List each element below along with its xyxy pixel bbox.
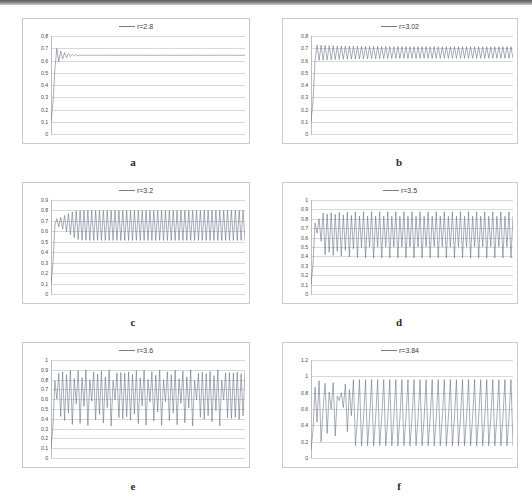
series-line	[311, 36, 513, 134]
y-axis-labels-e: 00.10.20.30.40.50.60.70.80.91	[25, 360, 50, 458]
y-tick-label: 0.3	[41, 94, 48, 100]
y-tick-label: 0.8	[301, 216, 308, 222]
figure-cell-c: r=3.2 00.10.20.30.40.50.60.70.80.9 c	[0, 170, 266, 330]
y-tick-label: 0.5	[41, 239, 48, 245]
y-tick-label: 0.2	[41, 270, 48, 276]
y-tick-label: 1	[305, 373, 308, 379]
y-tick-label: 0.7	[41, 386, 48, 392]
legend-line-marker-icon	[381, 26, 397, 27]
y-tick-label: 0.7	[41, 45, 48, 51]
y-tick-label: 0.5	[301, 244, 308, 250]
y-tick-label: 0.1	[41, 281, 48, 287]
legend-c: r=3.2	[23, 187, 249, 194]
y-tick-label: 0.2	[41, 107, 48, 113]
y-tick-label: 0.8	[41, 33, 48, 39]
figure-cell-a: r=2.8 00.10.20.30.40.50.60.70.8 a	[0, 6, 266, 170]
y-axis-labels-d: 00.10.20.30.40.50.60.70.80.91	[285, 200, 310, 294]
y-tick-label: 0.9	[301, 206, 308, 212]
gridline	[51, 294, 245, 295]
y-tick-label: 0.8	[301, 390, 308, 396]
legend-label-c: r=3.2	[137, 187, 153, 194]
y-tick-label: 0.5	[41, 70, 48, 76]
figure-cell-e: r=3.6 00.10.20.30.40.50.60.70.80.91 e	[0, 330, 266, 494]
y-tick-label: 0	[305, 291, 308, 297]
y-tick-label: 0.3	[301, 263, 308, 269]
y-tick-label: 0.6	[41, 58, 48, 64]
chart-panel-c: r=3.2 00.10.20.30.40.50.60.70.80.9	[22, 182, 250, 304]
series-line	[51, 200, 245, 294]
top-border-band	[0, 0, 532, 5]
y-tick-label: 0.2	[301, 107, 308, 113]
chart-panel-a: r=2.8 00.10.20.30.40.50.60.70.8	[22, 18, 250, 144]
y-tick-label: 0.7	[41, 218, 48, 224]
gridline	[311, 458, 513, 459]
y-axis-labels-b: 00.10.20.30.40.50.60.70.8	[285, 36, 310, 134]
plot-area-a	[51, 36, 245, 134]
chart-panel-d: r=3.5 00.10.20.30.40.50.60.70.80.91	[282, 182, 518, 304]
y-tick-label: 0.4	[41, 82, 48, 88]
plot-area-c	[51, 200, 245, 294]
y-tick-label: 0.7	[301, 225, 308, 231]
legend-e: r=3.6	[23, 347, 249, 354]
legend-label-f: r=3.84	[399, 347, 419, 354]
y-tick-label: 0.7	[301, 45, 308, 51]
panel-caption-a: a	[0, 156, 266, 168]
y-tick-label: 0	[45, 455, 48, 461]
panel-caption-b: b	[266, 156, 532, 168]
y-tick-label: 0.1	[41, 119, 48, 125]
gridline	[311, 134, 513, 135]
legend-a: r=2.8	[23, 23, 249, 30]
legend-d: r=3.5	[283, 187, 517, 194]
plot-area-f	[311, 360, 513, 458]
legend-line-marker-icon	[119, 190, 135, 191]
y-tick-label: 1.2	[301, 357, 308, 363]
series-line	[51, 360, 245, 458]
y-tick-label: 0	[45, 131, 48, 137]
y-tick-label: 0	[45, 291, 48, 297]
y-tick-label: 1	[45, 357, 48, 363]
y-tick-label: 0.4	[301, 253, 308, 259]
panel-caption-e: e	[0, 480, 266, 492]
gridline	[311, 294, 513, 295]
figure-cell-f: r=3.84 00.20.40.60.811.2 f	[266, 330, 532, 494]
legend-b: r=3.02	[283, 23, 517, 30]
series-line	[311, 200, 513, 294]
plot-area-b	[311, 36, 513, 134]
y-tick-label: 0.8	[301, 33, 308, 39]
panel-caption-d: d	[266, 316, 532, 328]
legend-label-e: r=3.6	[137, 347, 153, 354]
y-tick-label: 0.4	[41, 416, 48, 422]
y-tick-label: 0.3	[301, 94, 308, 100]
y-tick-label: 0.4	[41, 249, 48, 255]
y-tick-label: 0.8	[41, 377, 48, 383]
y-tick-label: 0.4	[301, 82, 308, 88]
y-tick-label: 0.6	[41, 396, 48, 402]
y-tick-label: 0.6	[301, 58, 308, 64]
y-tick-label: 0.3	[41, 260, 48, 266]
y-tick-label: 1	[305, 197, 308, 203]
legend-line-marker-icon	[383, 190, 399, 191]
y-tick-label: 0.6	[301, 406, 308, 412]
chart-panel-e: r=3.6 00.10.20.30.40.50.60.70.80.91	[22, 342, 250, 468]
y-tick-label: 0.1	[41, 445, 48, 451]
legend-line-marker-icon	[119, 26, 135, 27]
y-tick-label: 0.5	[301, 70, 308, 76]
chart-panel-f: r=3.84 00.20.40.60.811.2	[282, 342, 518, 468]
y-tick-label: 0.4	[301, 422, 308, 428]
y-tick-label: 0.1	[301, 119, 308, 125]
plot-area-d	[311, 200, 513, 294]
figure-panel-grid: r=2.8 00.10.20.30.40.50.60.70.8 a r=3.02…	[0, 6, 532, 500]
y-tick-label: 0.3	[41, 426, 48, 432]
y-tick-label: 0.2	[41, 435, 48, 441]
plot-area-e	[51, 360, 245, 458]
y-tick-label: 0	[305, 455, 308, 461]
y-tick-label: 0.2	[301, 272, 308, 278]
figure-cell-d: r=3.5 00.10.20.30.40.50.60.70.80.91 d	[266, 170, 532, 330]
series-line	[51, 36, 245, 134]
legend-f: r=3.84	[283, 347, 517, 354]
panel-caption-c: c	[0, 316, 266, 328]
y-axis-labels-c: 00.10.20.30.40.50.60.70.80.9	[25, 200, 50, 294]
y-tick-label: 0.6	[41, 228, 48, 234]
y-tick-label: 0.9	[41, 367, 48, 373]
y-tick-label: 0.9	[41, 197, 48, 203]
